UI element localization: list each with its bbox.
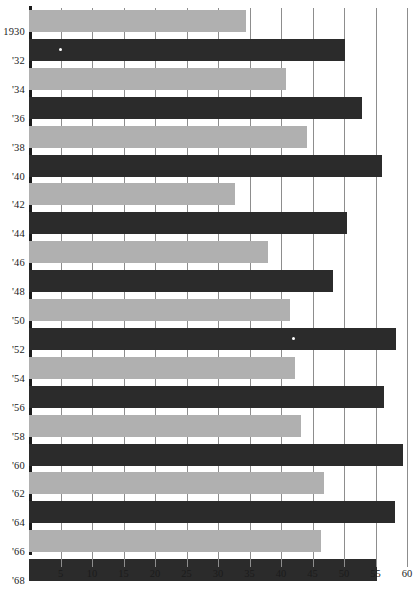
bar-60: [29, 444, 403, 466]
x-axis-tick-50: [344, 553, 345, 567]
x-axis-tick-15: [124, 553, 125, 567]
x-axis-label-40: 40: [276, 568, 287, 579]
x-axis-tick-60: [407, 553, 408, 567]
x-axis-label-35: 35: [244, 568, 255, 579]
bar-36: [29, 97, 362, 119]
y-axis-label-56: '56: [12, 402, 25, 413]
gridline-60: [407, 8, 408, 553]
y-axis-label-54: '54: [12, 373, 25, 384]
bar-32: [29, 39, 345, 61]
bar-48: [29, 270, 333, 292]
y-axis-label-36: '36: [12, 113, 25, 124]
x-axis-label-25: 25: [181, 568, 192, 579]
bar-54: [29, 357, 295, 379]
y-axis-label-38: '38: [12, 142, 25, 153]
bar-38: [29, 126, 307, 148]
y-axis-label-66: '66: [12, 546, 25, 557]
x-axis-tick-35: [250, 553, 251, 567]
y-axis-label-62: '62: [12, 488, 25, 499]
x-axis-labels: 51015202530354045505560: [29, 568, 407, 584]
x-axis-tick-25: [187, 553, 188, 567]
x-axis-label-5: 5: [58, 568, 63, 579]
bar-1930: [29, 10, 246, 32]
y-axis-label-34: '34: [12, 84, 25, 95]
plot-area: [29, 8, 407, 553]
bar-42: [29, 183, 235, 205]
x-axis-label-20: 20: [150, 568, 161, 579]
y-axis-label-32: '32: [12, 55, 25, 66]
x-axis-label-50: 50: [339, 568, 350, 579]
x-axis-label-55: 55: [370, 568, 381, 579]
y-axis-label-48: '48: [12, 286, 25, 297]
bar-34: [29, 68, 286, 90]
y-axis-label-1930: 1930: [3, 26, 25, 37]
x-axis-tick-55: [376, 553, 377, 567]
x-axis-tick-30: [218, 553, 219, 567]
y-axis-label-50: '50: [12, 315, 25, 326]
bar-40: [29, 155, 382, 177]
bar-52: [29, 328, 396, 350]
y-axis-label-52: '52: [12, 344, 25, 355]
x-axis-label-60: 60: [402, 568, 413, 579]
y-axis-label-58: '58: [12, 431, 25, 442]
x-axis-label-30: 30: [213, 568, 224, 579]
x-axis-label-45: 45: [307, 568, 318, 579]
x-axis-ticks: [29, 553, 407, 567]
x-axis-label-10: 10: [87, 568, 98, 579]
y-axis-labels: 1930'32'34'36'38'40'42'44'46'48'50'52'54…: [0, 8, 27, 553]
y-axis-label-64: '64: [12, 517, 25, 528]
bar-50: [29, 299, 290, 321]
bar-56: [29, 386, 384, 408]
bar-66: [29, 530, 321, 552]
y-axis-label-42: '42: [12, 199, 25, 210]
y-axis-label-44: '44: [12, 228, 25, 239]
y-axis-label-46: '46: [12, 257, 25, 268]
bar-44: [29, 212, 347, 234]
y-axis-label-40: '40: [12, 171, 25, 182]
x-axis-tick-5: [61, 553, 62, 567]
bar-64: [29, 501, 395, 523]
x-axis-tick-45: [313, 553, 314, 567]
bar-58: [29, 415, 301, 437]
bar-chart: 1930'32'34'36'38'40'42'44'46'48'50'52'54…: [0, 0, 416, 597]
x-axis-tick-40: [281, 553, 282, 567]
bars-group: [29, 8, 407, 553]
y-axis-label-60: '60: [12, 460, 25, 471]
x-axis-label-15: 15: [118, 568, 129, 579]
bar-62: [29, 472, 324, 494]
bar-46: [29, 241, 268, 263]
y-axis-label-68: '68: [12, 575, 25, 586]
x-axis-tick-20: [155, 553, 156, 567]
x-axis-tick-10: [92, 553, 93, 567]
